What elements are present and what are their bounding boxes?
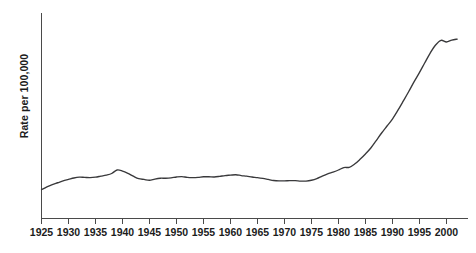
x-axis-tick-label: 1990: [381, 226, 405, 238]
x-axis-tick-label: 1955: [192, 226, 216, 238]
chart-figure: Rate per 100,000 19251930193519401945195…: [0, 0, 476, 253]
x-axis-tick-label: 1935: [84, 226, 108, 238]
x-axis-tick-label: 1925: [30, 226, 54, 238]
x-axis-tick-label: 1950: [165, 226, 189, 238]
data-line-rate-per-100000: [42, 39, 458, 190]
x-axis-ticks: [42, 219, 447, 224]
x-axis-tick-label: 1945: [138, 226, 162, 238]
x-axis-tick-label: 1940: [111, 226, 135, 238]
x-axis-tick-label: 1985: [354, 226, 378, 238]
x-axis-tick-labels: 1925193019351940194519501955196019651970…: [30, 226, 458, 238]
line-chart-plot: 1925193019351940194519501955196019651970…: [0, 0, 476, 253]
x-axis-tick-label: 1965: [246, 226, 270, 238]
x-axis-tick-label: 2000: [435, 226, 459, 238]
x-axis-tick-label: 1930: [57, 226, 81, 238]
x-axis-tick-label: 1970: [273, 226, 297, 238]
x-axis-tick-label: 1975: [300, 226, 324, 238]
axes-group: [41, 13, 468, 219]
x-axis-tick-label: 1980: [327, 226, 351, 238]
series-group: [42, 39, 458, 190]
x-axis-tick-label: 1995: [408, 226, 432, 238]
x-axis-tick-label: 1960: [219, 226, 243, 238]
